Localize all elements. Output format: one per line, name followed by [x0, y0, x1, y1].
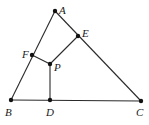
segment-AC [55, 11, 141, 101]
label-D: D [45, 106, 54, 118]
point-P [48, 62, 52, 66]
geometry-diagram: A E F P B D C [0, 0, 149, 125]
label-B: B [5, 106, 12, 118]
label-F: F [21, 48, 29, 60]
segment-PE [50, 36, 78, 64]
point-D [48, 98, 52, 102]
triangle-figure: A E F P B D C [0, 0, 149, 125]
label-A: A [58, 4, 66, 16]
segment-FP [32, 55, 50, 64]
segment-BC [11, 100, 141, 101]
label-P: P [53, 61, 61, 73]
label-C: C [136, 106, 144, 118]
point-F [30, 53, 34, 57]
point-A [53, 9, 57, 13]
point-B [9, 98, 13, 102]
point-E [76, 34, 80, 38]
label-E: E [81, 27, 89, 39]
point-C [139, 99, 143, 103]
